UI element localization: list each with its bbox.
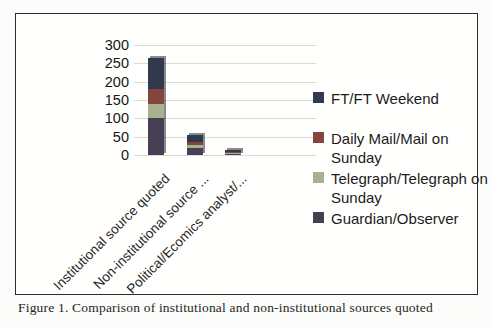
legend-swatch	[313, 132, 324, 143]
legend-swatch	[313, 172, 324, 183]
legend-swatch	[313, 92, 324, 103]
legend-label: FT/FT Weekend	[331, 89, 489, 108]
legend-label: Guardian/Observer	[331, 209, 489, 228]
figure-page: 050100150200250300 Institutional source …	[0, 0, 492, 327]
legend-label: Daily Mail/Mail on Sunday	[331, 129, 489, 167]
legend-item: Telegraph/Telegraph on Sunday	[313, 169, 489, 207]
chart-frame: 050100150200250300 Institutional source …	[15, 13, 478, 295]
legend-item: Guardian/Observer	[313, 209, 489, 228]
legend-label: Telegraph/Telegraph on Sunday	[331, 169, 489, 207]
legend-item: FT/FT Weekend	[313, 89, 489, 108]
legend-item: Daily Mail/Mail on Sunday	[313, 129, 489, 167]
figure-caption: Figure 1. Comparison of institutional an…	[18, 300, 478, 316]
legend-swatch	[313, 212, 324, 223]
